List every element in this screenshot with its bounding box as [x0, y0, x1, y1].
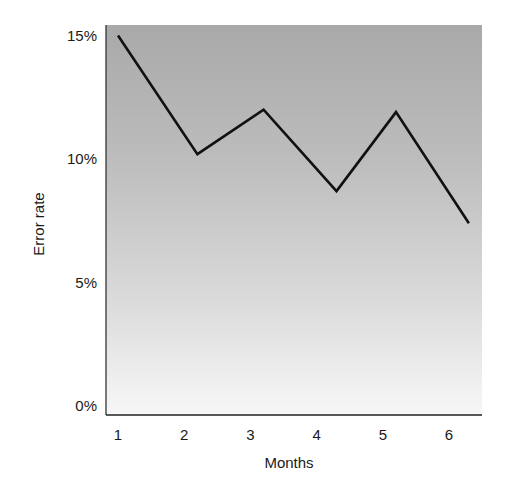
y-tick-label: 10% [67, 150, 97, 167]
x-tick-label: 5 [379, 426, 387, 443]
line-chart: 0%5%10%15% 123456 Error rate Months [0, 0, 506, 495]
x-tick-label: 2 [180, 426, 188, 443]
x-tick-label: 3 [246, 426, 254, 443]
y-tick-label: 0% [75, 397, 97, 414]
y-tick-labels: 0%5%10%15% [67, 27, 97, 415]
x-tick-label: 4 [312, 426, 320, 443]
x-axis-label: Months [264, 454, 313, 471]
y-tick-label: 5% [75, 274, 97, 291]
x-tick-label: 1 [114, 426, 122, 443]
y-axis-label: Error rate [30, 192, 47, 255]
plot-area [106, 25, 482, 415]
x-tick-labels: 123456 [114, 426, 453, 443]
x-tick-label: 6 [445, 426, 453, 443]
y-tick-label: 15% [67, 27, 97, 44]
